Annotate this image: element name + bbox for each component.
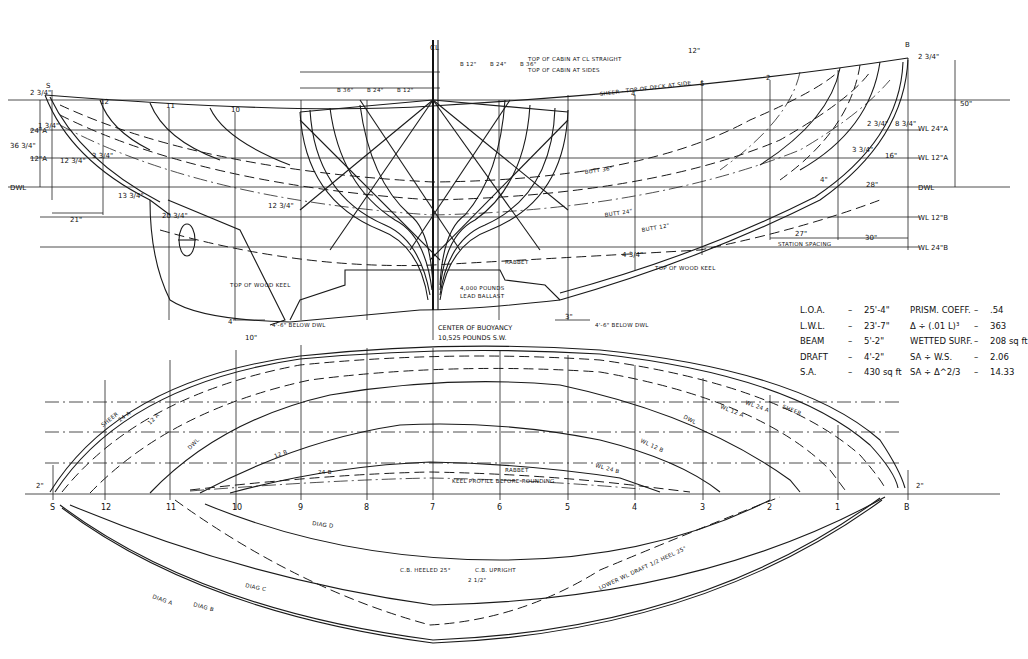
- svg-text:BUTT 36": BUTT 36": [584, 165, 613, 175]
- svg-text:5: 5: [700, 80, 704, 88]
- svg-text:SHEER: SHEER: [100, 411, 119, 428]
- svg-text:27": 27": [795, 230, 807, 238]
- svg-text:TOP OF CABIN AT SIDES: TOP OF CABIN AT SIDES: [527, 67, 600, 73]
- svg-text:4": 4": [820, 176, 828, 184]
- svg-text:2 3/4": 2 3/4": [30, 89, 51, 97]
- svg-text:24 B: 24 B: [318, 469, 332, 475]
- spec-row: WETTED SURF.–208 sq ft: [910, 336, 1028, 352]
- svg-text:DWL: DWL: [186, 436, 200, 450]
- svg-text:RABBET: RABBET: [505, 467, 529, 473]
- svg-text:4": 4": [228, 318, 236, 326]
- svg-text:SHEER - TOP OF DECK AT SIDE: SHEER - TOP OF DECK AT SIDE: [599, 80, 691, 97]
- svg-text:3": 3": [565, 313, 573, 321]
- svg-text:3 3/4": 3 3/4": [852, 146, 873, 154]
- svg-text:BUTT 12": BUTT 12": [641, 222, 670, 233]
- svg-text:4: 4: [632, 503, 637, 512]
- svg-text:36 3/4": 36 3/4": [10, 142, 36, 150]
- svg-text:DWL: DWL: [683, 414, 698, 426]
- svg-text:B 12": B 12": [460, 61, 477, 67]
- svg-text:B: B: [904, 503, 910, 512]
- center-of-buoyancy-note: CENTER OF BUOYANCY 10,525 POUNDS S.W.: [438, 323, 512, 343]
- svg-text:2 1/2": 2 1/2": [468, 577, 486, 583]
- svg-text:WL 12 B: WL 12 B: [640, 437, 665, 453]
- svg-text:2 3/4": 2 3/4": [918, 53, 939, 61]
- svg-text:WL 12 A: WL 12 A: [720, 403, 745, 418]
- svg-text:24 A: 24 A: [117, 410, 132, 423]
- specs-column-right: PRISM. COEFF.–.54 Δ ÷ (.01 L)³–363 WETTE…: [910, 305, 1028, 383]
- spec-row: SA ÷ W.S.–2.06: [910, 352, 1028, 368]
- spec-row: SA ÷ Δ^2/3–14.33: [910, 367, 1028, 383]
- svg-text:12: 12: [100, 98, 109, 106]
- svg-text:TOP OF CABIN AT CL STRAIGHT: TOP OF CABIN AT CL STRAIGHT: [527, 56, 622, 62]
- svg-text:WL 24 B: WL 24 B: [595, 462, 621, 474]
- svg-text:4'-6" BELOW DWL: 4'-6" BELOW DWL: [595, 322, 649, 328]
- svg-text:4'-6" BELOW DWL: 4'-6" BELOW DWL: [272, 322, 326, 328]
- svg-text:2": 2": [916, 482, 924, 490]
- half-breadth-view: [25, 345, 1000, 643]
- spec-row: S.A.–430 sq ft: [800, 367, 902, 383]
- svg-text:12: 12: [101, 503, 111, 512]
- svg-text:2": 2": [36, 482, 44, 490]
- profile-labels: S 12 11 10 4 5 2 B 36 3/4" 50" 21" 27" S…: [10, 41, 972, 342]
- svg-text:RABBET: RABBET: [505, 259, 529, 265]
- svg-text:11: 11: [166, 102, 175, 110]
- svg-text:B 24": B 24": [367, 87, 384, 93]
- svg-text:6: 6: [497, 503, 502, 512]
- svg-text:12 B: 12 B: [273, 449, 288, 459]
- svg-text:20 3/4": 20 3/4": [162, 212, 188, 220]
- svg-text:TOP OF WOOD KEEL: TOP OF WOOD KEEL: [229, 282, 291, 288]
- svg-text:B 36": B 36": [520, 61, 537, 67]
- spec-row: Δ ÷ (.01 L)³–363: [910, 321, 1028, 337]
- profile-view: [8, 40, 1010, 340]
- svg-text:B 36": B 36": [337, 87, 354, 93]
- svg-text:12"A: 12"A: [30, 155, 47, 163]
- svg-text:CL: CL: [430, 44, 439, 52]
- svg-text:1: 1: [835, 503, 840, 512]
- svg-text:DWL: DWL: [10, 184, 26, 192]
- svg-text:28": 28": [866, 181, 878, 189]
- svg-text:8 3/4": 8 3/4": [895, 120, 916, 128]
- svg-text:3 3/4": 3 3/4": [92, 152, 113, 160]
- svg-text:1 3/4": 1 3/4": [38, 122, 59, 130]
- svg-text:WL 12"A: WL 12"A: [918, 154, 948, 162]
- svg-text:S: S: [50, 503, 55, 512]
- svg-text:4 3/4": 4 3/4": [622, 251, 643, 259]
- svg-text:9: 9: [298, 503, 303, 512]
- svg-text:WL 24 A: WL 24 A: [745, 399, 770, 413]
- cob-value: 10,525 POUNDS S.W.: [438, 333, 512, 343]
- svg-text:12 A: 12 A: [146, 412, 160, 426]
- svg-text:SHEER: SHEER: [782, 403, 803, 416]
- svg-text:DWL: DWL: [918, 184, 934, 192]
- spec-row: DRAFT–4'-2": [800, 352, 902, 368]
- spec-row: PRISM. COEFF.–.54: [910, 305, 1028, 321]
- half-breadth-labels: S 12 11 10 9 8 7 6 5 4 3 2 1 B SHEER 24 …: [36, 399, 924, 612]
- svg-text:WL 24"A: WL 24"A: [918, 125, 948, 133]
- spec-row: L.W.L.–23'-7": [800, 321, 902, 337]
- spec-row: BEAM–5'-2": [800, 336, 902, 352]
- svg-text:TOP OF WOOD KEEL: TOP OF WOOD KEEL: [654, 265, 716, 271]
- svg-text:10: 10: [231, 106, 240, 114]
- svg-text:LEAD BALLAST: LEAD BALLAST: [460, 293, 505, 299]
- svg-text:4,000 POUNDS: 4,000 POUNDS: [460, 285, 505, 291]
- svg-text:3: 3: [700, 503, 705, 512]
- svg-text:7: 7: [430, 503, 435, 512]
- svg-text:50": 50": [960, 100, 972, 108]
- svg-text:30": 30": [865, 234, 877, 242]
- svg-text:DIAG B: DIAG B: [193, 601, 215, 612]
- svg-text:B: B: [905, 41, 910, 49]
- svg-text:C.B. UPRIGHT: C.B. UPRIGHT: [475, 567, 516, 573]
- svg-text:STATION SPACING: STATION SPACING: [778, 241, 831, 247]
- svg-text:16": 16": [885, 152, 897, 160]
- svg-text:8: 8: [364, 503, 369, 512]
- svg-text:12": 12": [688, 47, 700, 55]
- svg-text:WL 12"B: WL 12"B: [918, 214, 948, 222]
- svg-text:12 3/4": 12 3/4": [268, 202, 294, 210]
- svg-text:DIAG D: DIAG D: [312, 520, 334, 529]
- svg-text:2: 2: [766, 74, 770, 82]
- svg-text:5: 5: [565, 503, 570, 512]
- svg-text:10": 10": [245, 334, 257, 342]
- svg-text:KEEL PROFILE BEFORE ROUNDING: KEEL PROFILE BEFORE ROUNDING: [452, 478, 555, 484]
- cob-title: CENTER OF BUOYANCY: [438, 323, 512, 333]
- specs-column-left: L.O.A.–25'-4" L.W.L.–23'-7" BEAM–5'-2" D…: [800, 305, 902, 383]
- svg-text:2: 2: [767, 503, 772, 512]
